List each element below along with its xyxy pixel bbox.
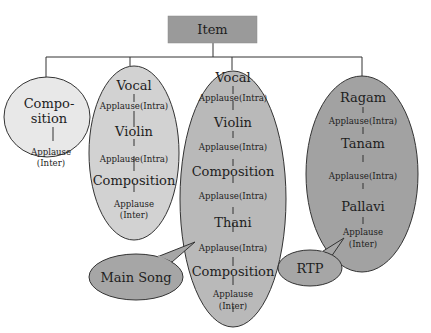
applause-label: Applause — [212, 289, 253, 299]
diagram-canvas: Item Compo- sition Applause (Inter) Voca… — [0, 0, 431, 333]
callout-main-song: Main Song — [89, 242, 195, 300]
node-vocal: Vocal — [115, 78, 151, 93]
node-vocal: Vocal — [214, 70, 250, 85]
applause-label: (Inter) — [349, 239, 377, 249]
root-label: Item — [197, 22, 227, 37]
callout-label: RTP — [297, 261, 324, 276]
callout-label: Main Song — [100, 270, 171, 285]
applause-label: (Inter) — [219, 301, 247, 311]
applause-label: Applause(Intra) — [198, 93, 267, 103]
applause-label: Applause(Intra) — [99, 154, 168, 164]
node-composition: Composition — [192, 164, 275, 179]
node-label: Compo- — [24, 96, 75, 111]
applause-label: Applause — [113, 199, 154, 209]
root-node: Item — [168, 16, 257, 43]
applause-label: Applause(Intra) — [198, 142, 267, 152]
node-ragam: Ragam — [340, 90, 386, 105]
node-composition: Composition — [93, 173, 176, 188]
group-main-song: Vocal Applause(Intra) Violin Applause(In… — [180, 70, 286, 327]
applause-label: Applause(Intra) — [198, 191, 267, 201]
group-rtp: Ragam Applause(Intra) Tanam Applause(Int… — [306, 76, 418, 272]
node-violin: Violin — [213, 115, 252, 130]
group-composition-only: Compo- sition Applause (Inter) — [4, 77, 90, 168]
applause-label: Applause — [342, 227, 383, 237]
group-vocal-violin-composition: Vocal Applause(Intra) Violin Applause(In… — [89, 66, 179, 240]
applause-label: Applause(Intra) — [198, 243, 267, 253]
applause-label: (Inter) — [120, 210, 148, 220]
node-tanam: Tanam — [341, 136, 385, 151]
node-thani: Thani — [214, 215, 251, 230]
node-violin: Violin — [114, 124, 153, 139]
applause-label: Applause(Intra) — [328, 171, 397, 181]
tree-connectors — [46, 43, 362, 78]
applause-label: Applause — [30, 147, 71, 157]
node-composition: Composition — [192, 264, 275, 279]
applause-label: (Inter) — [37, 158, 65, 168]
node-label: sition — [31, 111, 68, 126]
callout-rtp: RTP — [278, 238, 344, 286]
applause-label: Applause(Intra) — [328, 116, 397, 126]
node-pallavi: Pallavi — [341, 199, 384, 214]
applause-label: Applause(Intra) — [99, 101, 168, 111]
